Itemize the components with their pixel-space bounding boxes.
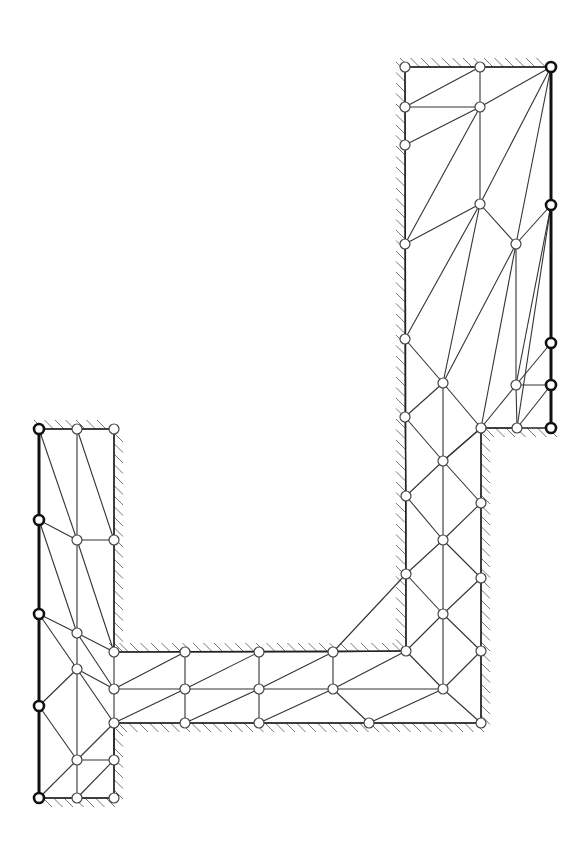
hatch-mark <box>396 535 405 544</box>
hatch-mark <box>396 598 405 607</box>
hatch-mark <box>396 125 405 134</box>
mesh-edge <box>406 614 443 651</box>
mesh-node-icon <box>109 755 119 765</box>
mesh-node-icon <box>476 573 486 583</box>
hatch-mark <box>114 591 123 600</box>
hatch-mark <box>396 482 405 491</box>
mesh-node-icon <box>475 199 485 209</box>
hatch-mark <box>234 723 243 732</box>
hatch-mark <box>192 723 201 732</box>
hatch-mark <box>396 304 405 313</box>
hatch-mark <box>481 558 490 567</box>
loaded-node-icon <box>34 701 44 711</box>
hatch-mark <box>114 612 123 621</box>
hatch-mark <box>223 723 232 732</box>
hatch-mark <box>396 545 405 554</box>
hatch-mark <box>213 723 222 732</box>
hatch-mark <box>396 251 405 260</box>
hatch-mark <box>214 643 223 652</box>
mesh-edge <box>443 204 480 383</box>
mesh-edge <box>406 461 443 496</box>
hatch-mark <box>402 723 411 732</box>
hatch-mark <box>396 619 405 628</box>
mesh-edge <box>443 383 481 428</box>
mesh-node-icon <box>254 647 264 657</box>
hatch-mark <box>432 58 441 67</box>
hatch-mark <box>114 570 123 579</box>
hatch-mark <box>114 580 123 589</box>
hatch-mark <box>396 94 405 103</box>
hatch-mark <box>246 643 255 652</box>
mesh-edge <box>443 503 481 540</box>
hatch-mark <box>537 58 546 67</box>
hatch-mark <box>193 643 202 652</box>
hatch-mark <box>481 663 490 672</box>
mesh-edge <box>77 633 114 689</box>
mesh-edge <box>39 760 77 798</box>
hatch-mark <box>114 486 123 495</box>
mesh-edge <box>405 339 443 383</box>
loaded-node-icon <box>546 62 556 72</box>
mesh-node-icon <box>401 491 411 501</box>
mesh-node-icon <box>72 793 82 803</box>
mesh-node-icon <box>400 412 410 422</box>
mesh-node-icon <box>476 718 486 728</box>
hatch-mark <box>114 622 123 631</box>
mesh-edge <box>443 578 481 614</box>
mesh-edge <box>516 343 551 385</box>
hatch-mark <box>396 293 405 302</box>
mesh-edge <box>405 107 480 145</box>
hatch-mark <box>162 643 171 652</box>
mesh-edge <box>259 652 333 689</box>
mesh-node-icon <box>72 628 82 638</box>
loaded-node-icon <box>34 793 44 803</box>
hatch-mark <box>171 723 180 732</box>
mesh-node-icon <box>476 646 486 656</box>
hatch-mark <box>139 723 148 732</box>
hatch-mark <box>481 474 490 483</box>
mesh-edge <box>481 385 516 428</box>
mesh-edge <box>405 67 480 107</box>
hatch-mark <box>481 464 490 473</box>
hatch-mark <box>396 283 405 292</box>
hatch-mark <box>129 723 138 732</box>
hatch-mark <box>235 643 244 652</box>
hatch-mark <box>481 453 490 462</box>
mesh-node-icon <box>476 423 486 433</box>
hatch-mark <box>516 58 525 67</box>
mesh-edge <box>259 689 333 723</box>
hatch-mark <box>396 199 405 208</box>
hatch-mark <box>396 167 405 176</box>
mesh-node-icon <box>438 609 448 619</box>
hatch-mark <box>481 695 490 704</box>
hatch-mark <box>396 209 405 218</box>
mesh-edge <box>185 689 259 723</box>
mesh-edge <box>481 244 516 428</box>
hatch-mark <box>114 769 123 778</box>
mesh-node-icon <box>400 140 410 150</box>
hatch-mark <box>114 780 123 789</box>
mesh-edge <box>443 244 516 383</box>
hatch-mark <box>481 537 490 546</box>
hatch-mark <box>396 629 405 638</box>
hatch-mark <box>505 58 514 67</box>
hatch-mark <box>396 398 405 407</box>
mesh-node-icon <box>72 755 82 765</box>
mesh-edge <box>443 651 481 689</box>
mesh-node-icon <box>72 535 82 545</box>
mesh-edge <box>405 383 443 417</box>
mesh-edge <box>333 689 369 723</box>
hatch-mark <box>396 440 405 449</box>
mesh-edge <box>114 689 185 723</box>
hatch-mark <box>265 723 274 732</box>
hatch-mark <box>202 723 211 732</box>
channel-bottom-wall-hatch <box>118 723 484 732</box>
hatch-mark <box>85 798 94 807</box>
hatch-mark <box>396 188 405 197</box>
mesh-node-icon <box>72 424 82 434</box>
hatch-mark <box>481 621 490 630</box>
hatch-mark <box>114 549 123 558</box>
hatch-mark <box>267 643 276 652</box>
hatch-mark <box>396 73 405 82</box>
hatch-mark <box>396 325 405 334</box>
